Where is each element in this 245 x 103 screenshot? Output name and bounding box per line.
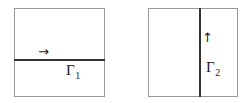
up-arrow-icon: ↑ <box>202 31 213 44</box>
gamma-2-label: Γ2 <box>206 60 220 78</box>
left-domain-square <box>14 8 105 97</box>
horizontal-interface-line <box>14 59 105 61</box>
gamma-1-symbol: Γ <box>66 62 75 78</box>
interface-diagram-figure: → Γ1 ↑ Γ2 <box>0 0 245 103</box>
gamma-2-symbol: Γ <box>206 59 215 75</box>
gamma-1-subscript: 1 <box>75 70 81 81</box>
gamma-2-subscript: 2 <box>215 67 221 78</box>
right-arrow-icon: → <box>38 45 49 58</box>
vertical-interface-line <box>199 8 201 97</box>
gamma-1-label: Γ1 <box>66 63 80 81</box>
right-domain-square <box>148 8 238 97</box>
